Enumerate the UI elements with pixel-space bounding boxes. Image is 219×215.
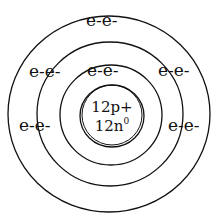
electron-pair-outer-top: e-e- bbox=[86, 12, 118, 29]
neutron-count-base: 12n bbox=[95, 117, 124, 135]
neutron-count: 12n0 bbox=[80, 117, 144, 136]
proton-count: 12p+ bbox=[80, 98, 144, 117]
electron-pair-middle-upper-right: e-e- bbox=[158, 62, 190, 79]
neutron-superscript: 0 bbox=[124, 116, 130, 126]
electron-pair-middle-right: e-e- bbox=[168, 117, 200, 134]
electron-pair-middle-upper-left: e-e- bbox=[29, 63, 61, 80]
electron-pair-inner-top: e-e- bbox=[87, 62, 119, 79]
nucleus-label: 12p+ 12n0 bbox=[80, 98, 144, 136]
electron-pair-middle-left: e-e- bbox=[19, 117, 51, 134]
